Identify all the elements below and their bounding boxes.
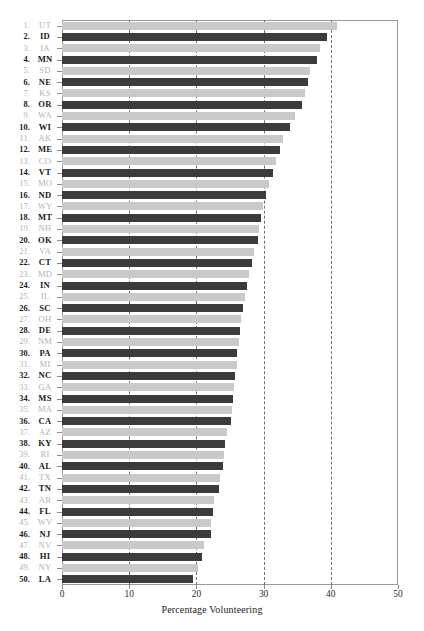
state-label-ms: MS (33, 393, 57, 404)
bar-nd (62, 191, 266, 199)
bar-ky (62, 440, 225, 448)
rank-label: 37. (4, 427, 30, 438)
bar-row: 33.GA (0, 382, 424, 393)
rank-label: 16. (4, 190, 30, 201)
state-label-ct: CT (33, 257, 57, 268)
bar-row: 12.ME (0, 144, 424, 155)
rank-label: 21. (4, 246, 30, 257)
bar-md (62, 270, 249, 278)
state-label-wi: WI (33, 122, 57, 133)
bar-row: 23.MD (0, 269, 424, 280)
bar-nv (62, 541, 204, 549)
rank-label: 45. (4, 517, 30, 528)
state-label-sc: SC (33, 303, 57, 314)
state-label-nc: NC (33, 370, 57, 381)
state-label-nm: NM (33, 336, 57, 347)
rank-label: 11. (4, 133, 30, 144)
bar-pa (62, 349, 237, 357)
bar-fl (62, 508, 213, 516)
bar-ri (62, 451, 224, 459)
bar-row: 10.WI (0, 122, 424, 133)
bar-sd (62, 67, 310, 75)
state-label-ma: MA (33, 404, 57, 415)
state-label-fl: FL (33, 506, 57, 517)
rank-label: 26. (4, 303, 30, 314)
rank-label: 4. (4, 54, 30, 65)
bar-wv (62, 519, 211, 527)
state-label-pa: PA (33, 348, 57, 359)
bar-row: 17.WY (0, 201, 424, 212)
bar-ga (62, 383, 234, 391)
state-label-wv: WV (33, 517, 57, 528)
bar-chart: 1.UT2.ID3.IA4.MN5.SD6.NE7.KS8.OR9.WA10.W… (0, 0, 424, 631)
state-label-tn: TN (33, 483, 57, 494)
state-label-vt: VT (33, 167, 57, 178)
bar-la (62, 575, 193, 583)
state-label-oh: OH (33, 314, 57, 325)
state-label-nd: ND (33, 190, 57, 201)
state-label-me: ME (33, 144, 57, 155)
rank-label: 41. (4, 472, 30, 483)
rank-label: 5. (4, 65, 30, 76)
bar-ca (62, 417, 231, 425)
state-label-ut: UT (33, 20, 57, 31)
state-label-tx: TX (33, 472, 57, 483)
bar-in (62, 282, 247, 290)
bar-me (62, 146, 280, 154)
rank-label: 47. (4, 540, 30, 551)
bar-ma (62, 406, 232, 414)
bar-wy (62, 202, 263, 210)
x-tick-label-30: 30 (249, 589, 279, 599)
rank-label: 40. (4, 461, 30, 472)
bar-row: 42.TN (0, 483, 424, 494)
state-label-ny: NY (33, 562, 57, 573)
state-label-wa: WA (33, 110, 57, 121)
state-label-ok: OK (33, 235, 57, 246)
state-label-ia: IA (33, 43, 57, 54)
bar-de (62, 327, 240, 335)
state-label-de: DE (33, 325, 57, 336)
state-label-ks: KS (33, 88, 57, 99)
bar-ks (62, 89, 305, 97)
bar-row: 31.MI (0, 359, 424, 370)
bar-row: 50.LA (0, 574, 424, 585)
rank-label: 39. (4, 449, 30, 460)
bar-hi (62, 553, 202, 561)
bar-row: 36.CA (0, 416, 424, 427)
bar-row: 32.NC (0, 370, 424, 381)
bar-row: 26.SC (0, 303, 424, 314)
rank-label: 18. (4, 212, 30, 223)
rank-label: 38. (4, 438, 30, 449)
bar-mt (62, 214, 261, 222)
rank-label: 35. (4, 404, 30, 415)
rank-label: 25. (4, 291, 30, 302)
bar-id (62, 33, 327, 41)
bar-row: 27.OH (0, 314, 424, 325)
rank-label: 32. (4, 370, 30, 381)
bar-row: 29.NM (0, 336, 424, 347)
bar-row: 15.MO (0, 178, 424, 189)
bar-co (62, 157, 276, 165)
state-label-or: OR (33, 99, 57, 110)
rank-label: 22. (4, 257, 30, 268)
bar-row: 21.VA (0, 246, 424, 257)
state-label-al: AL (33, 461, 57, 472)
bar-row: 14.VT (0, 167, 424, 178)
state-label-ky: KY (33, 438, 57, 449)
rank-label: 15. (4, 178, 30, 189)
state-label-az: AZ (33, 427, 57, 438)
bar-ar (62, 496, 214, 504)
bar-ak (62, 135, 283, 143)
rank-label: 8. (4, 99, 30, 110)
bar-rows: 1.UT2.ID3.IA4.MN5.SD6.NE7.KS8.OR9.WA10.W… (0, 20, 424, 585)
x-axis-title: Percentage Volunteering (0, 604, 424, 615)
bar-row: 43.AR (0, 495, 424, 506)
bar-row: 22.CT (0, 257, 424, 268)
bar-row: 3.IA (0, 43, 424, 54)
bar-row: 46.NJ (0, 529, 424, 540)
bar-vt (62, 169, 273, 177)
bar-ok (62, 236, 258, 244)
bar-ne (62, 78, 308, 86)
rank-label: 30. (4, 348, 30, 359)
state-label-ca: CA (33, 416, 57, 427)
